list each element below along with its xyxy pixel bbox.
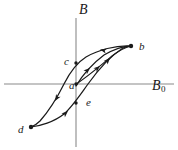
point-marker-c bbox=[74, 61, 77, 64]
hysteresis-diagram-svg bbox=[0, 0, 178, 150]
point-label-d: d bbox=[18, 124, 24, 135]
y-axis-label: B bbox=[79, 3, 88, 17]
point-marker-d bbox=[29, 125, 33, 129]
x-axis-label: B0 bbox=[152, 79, 166, 94]
point-marker-b bbox=[129, 44, 133, 48]
x-axis-label-base: B bbox=[152, 78, 161, 93]
point-label-c: c bbox=[64, 56, 69, 67]
point-label-e: e bbox=[86, 97, 91, 108]
point-label-b: b bbox=[139, 41, 145, 52]
x-axis-label-subscript: 0 bbox=[161, 84, 166, 94]
hysteresis-figure: B B0 a b c d e bbox=[0, 0, 178, 150]
curves-group bbox=[31, 46, 131, 127]
point-marker-e bbox=[74, 101, 77, 104]
ascending-branch bbox=[31, 46, 131, 127]
descending-branch bbox=[31, 46, 131, 127]
point-label-a: a bbox=[69, 80, 75, 91]
arrowheads-group bbox=[53, 47, 112, 117]
